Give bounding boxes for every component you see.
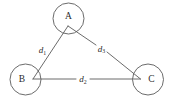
edge-label-d1: d1 <box>39 45 47 56</box>
edge-label-d2-subscript: 2 <box>84 79 87 85</box>
node-group <box>10 3 164 95</box>
node-label-b: B <box>19 74 25 84</box>
node-circle-b[interactable] <box>10 64 41 95</box>
edge-label-d3-subscript: 3 <box>102 48 105 54</box>
graph-diagram: A B C d1 d2 d3 <box>0 0 170 99</box>
edge-label-d3: d3 <box>98 44 106 55</box>
edge-label-d2: d2 <box>79 74 87 85</box>
edge-label-d1-subscript: 1 <box>43 50 46 56</box>
edge-line-a-c-lower <box>107 52 141 79</box>
node-label-a: A <box>65 11 72 21</box>
diagram-canvas: A B C d1 d2 d3 <box>0 0 170 99</box>
node-label-c: C <box>148 74 154 84</box>
edge-line-a-c-upper <box>68 26 96 45</box>
edge-group <box>33 26 141 79</box>
edge-label-group: d1 d2 d3 <box>39 44 106 85</box>
